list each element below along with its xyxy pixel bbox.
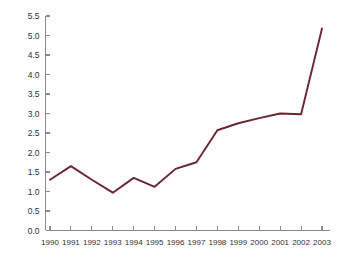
y-tick-label: 0.5 — [28, 206, 40, 216]
x-tick-label: 1991 — [62, 238, 80, 247]
x-tick-label: 1993 — [104, 238, 122, 247]
x-axis-ticks — [50, 226, 322, 231]
y-tick-label: 5.0 — [28, 31, 40, 41]
x-tick-label: 2001 — [271, 238, 289, 247]
x-axis: 1990199119921993199419951996199719981999… — [41, 226, 331, 247]
x-tick-label: 1992 — [83, 238, 101, 247]
x-tick-label: 2003 — [313, 238, 331, 247]
y-tick-label: 2.0 — [28, 148, 40, 158]
x-axis-tick-labels: 1990199119921993199419951996199719981999… — [41, 238, 331, 247]
y-tick-label: 1.0 — [28, 187, 40, 197]
y-tick-label: 3.0 — [28, 109, 40, 119]
x-tick-label: 1990 — [41, 238, 59, 247]
y-tick-label: 1.5 — [28, 167, 40, 177]
x-tick-label: 1999 — [229, 238, 247, 247]
plot-area: 0.00.51.01.52.02.53.03.54.04.55.05.5 199… — [0, 0, 337, 266]
x-tick-label: 2000 — [250, 238, 268, 247]
y-tick-label: 0.0 — [28, 226, 40, 236]
line-chart-figure: 0.00.51.01.52.02.53.03.54.04.55.05.5 199… — [0, 0, 337, 266]
data-series-line — [50, 28, 322, 192]
x-tick-label: 2002 — [292, 238, 310, 247]
x-tick-label: 1995 — [146, 238, 164, 247]
x-tick-label: 1997 — [188, 238, 206, 247]
y-tick-label: 4.5 — [28, 50, 40, 60]
x-tick-label: 1994 — [125, 238, 143, 247]
x-tick-label: 1998 — [208, 238, 226, 247]
y-axis-tick-labels: 0.00.51.01.52.02.53.03.54.04.55.05.5 — [28, 11, 40, 236]
y-tick-label: 3.5 — [28, 89, 40, 99]
y-tick-label: 5.5 — [28, 11, 40, 21]
y-axis-ticks — [46, 16, 51, 231]
x-tick-label: 1996 — [167, 238, 185, 247]
data-series-group — [50, 28, 322, 192]
y-axis: 0.00.51.01.52.02.53.03.54.04.55.05.5 — [28, 11, 50, 236]
y-tick-label: 4.0 — [28, 70, 40, 80]
y-tick-label: 2.5 — [28, 128, 40, 138]
